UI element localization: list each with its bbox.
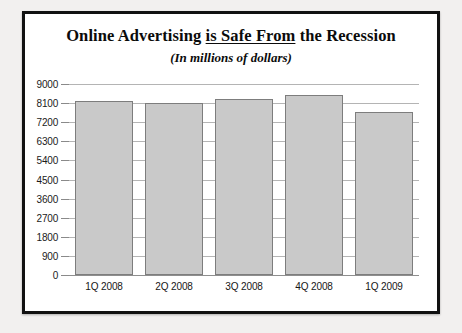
bar [145,103,204,275]
plot-area: 0900180027003600450054006300720081009000… [69,84,419,275]
x-axis-label: 1Q 2008 [85,281,123,292]
chart-card: Online Advertising is Safe From the Rece… [22,11,440,314]
y-axis-tick [61,122,69,123]
y-axis-tick [61,275,69,276]
chart-title-part1: Online Advertising [66,26,205,45]
x-axis-label: 1Q 2009 [365,281,403,292]
x-axis-label: 3Q 2008 [225,281,263,292]
y-axis-label: 4500 [37,174,58,185]
chart-page: Online Advertising is Safe From the Rece… [0,0,462,333]
chart-subtitle: (In millions of dollars) [25,50,437,66]
y-axis-tick [61,160,69,161]
y-axis-label: 7200 [37,117,58,128]
y-axis-tick [61,180,69,181]
chart-title: Online Advertising is Safe From the Rece… [25,26,437,46]
chart-title-underlined: is Safe From [206,26,296,45]
x-axis-label: 2Q 2008 [155,281,193,292]
chart-title-part2: the Recession [295,26,395,45]
y-axis-tick [61,199,69,200]
y-axis-label: 2700 [37,212,58,223]
x-axis-label: 4Q 2008 [295,281,333,292]
bar [355,112,414,275]
y-axis-label: 6300 [37,136,58,147]
y-axis-label: 8100 [37,98,58,109]
y-axis-label: 1800 [37,231,58,242]
y-axis-label: 5400 [37,155,58,166]
y-axis-tick [61,218,69,219]
y-axis-tick [61,84,69,85]
y-axis-label: 900 [42,250,58,261]
y-axis-label: 3600 [37,193,58,204]
bar [75,101,134,275]
y-axis-label: 0 [53,270,58,281]
bars-group [69,84,419,275]
bar [285,95,344,275]
y-axis-label: 9000 [37,79,58,90]
y-axis-tick [61,141,69,142]
y-axis-tick [61,103,69,104]
y-axis-tick [61,237,69,238]
bar [215,99,274,275]
y-axis-tick [61,256,69,257]
gridline [69,275,419,276]
